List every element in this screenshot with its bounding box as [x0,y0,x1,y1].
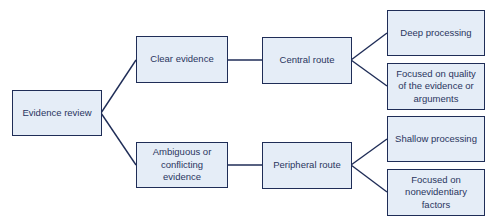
node-deep-processing: Deep processing [387,10,485,56]
edge-central-deep [351,33,387,60]
node-ambiguous-evidence: Ambiguous or conflicting evidence [136,142,228,188]
node-evidence-review: Evidence review [12,90,102,136]
edge-root-ambiguous [101,113,136,165]
node-focused-on-quality: Focused on quality of the evidence or ar… [387,63,485,110]
edge-central-quality [351,60,387,86]
node-clear-evidence: Clear evidence [136,36,228,83]
edge-peripheral-shallow [351,139,387,165]
edge-root-clear [101,60,136,113]
node-focused-on-nonevidentiary: Focused on nonevidentiary factors [387,169,485,216]
edge-peripheral-nonevidentiary [351,165,387,192]
node-peripheral-route: Peripheral route [262,142,352,189]
node-central-route: Central route [262,37,352,84]
node-shallow-processing: Shallow processing [387,116,485,162]
